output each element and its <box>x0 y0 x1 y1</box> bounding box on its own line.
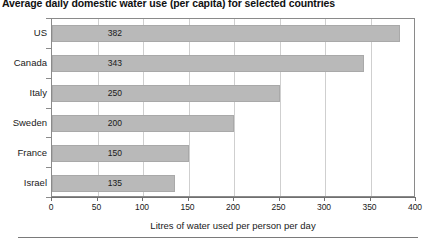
x-axis-tick <box>233 197 234 201</box>
x-axis-tick-label: 200 <box>218 202 248 212</box>
x-axis-tick-label: 150 <box>173 202 203 212</box>
gridline <box>98 19 99 196</box>
chart-title: Average daily domestic water use (per ca… <box>2 0 432 9</box>
x-axis-tick-label: 350 <box>355 202 385 212</box>
x-axis-tick <box>188 197 189 201</box>
x-axis-tick <box>324 197 325 201</box>
x-axis-tick-label: 300 <box>309 202 339 212</box>
x-axis-tick <box>370 197 371 201</box>
x-axis-tick-label: 250 <box>264 202 294 212</box>
y-axis-label: US <box>1 24 47 41</box>
x-axis-tick-label: 50 <box>82 202 112 212</box>
x-axis-title: Litres of water used per person per day <box>51 220 415 231</box>
x-axis-tick <box>279 197 280 201</box>
gridline <box>234 19 235 196</box>
gridline <box>325 19 326 196</box>
bar-row: 135 <box>52 175 416 192</box>
bar <box>52 115 234 132</box>
y-axis-label: Israel <box>1 174 47 191</box>
bar-row: 150 <box>52 145 416 162</box>
x-axis-tick <box>51 197 52 201</box>
x-axis-tick-label: 0 <box>36 202 66 212</box>
gridline <box>143 19 144 196</box>
bar-row: 200 <box>52 115 416 132</box>
bar-value-label: 200 <box>82 115 122 132</box>
x-axis-tick <box>142 197 143 201</box>
bar-value-label: 343 <box>82 55 122 72</box>
gridline <box>371 19 372 196</box>
gridline <box>280 19 281 196</box>
y-axis-label: France <box>1 144 47 161</box>
bar-row: 343 <box>52 55 416 72</box>
bar-row: 250 <box>52 85 416 102</box>
y-axis-label: Italy <box>1 84 47 101</box>
bar-value-label: 382 <box>82 25 122 42</box>
bar-row: 382 <box>52 25 416 42</box>
x-axis-tick-label: 100 <box>127 202 157 212</box>
x-axis-tick <box>415 197 416 201</box>
gridline <box>189 19 190 196</box>
bar-value-label: 135 <box>82 175 122 192</box>
y-axis-label-group: USCanadaItalySwedenFranceIsrael <box>0 18 47 197</box>
y-axis-label: Canada <box>1 54 47 71</box>
chart-page: Average daily domestic water use (per ca… <box>0 0 434 246</box>
x-axis-tick <box>97 197 98 201</box>
plot-area: 382343250200150135 <box>51 18 415 197</box>
x-axis-tick-label: 400 <box>400 202 430 212</box>
bar-value-label: 250 <box>82 85 122 102</box>
bar-value-label: 150 <box>82 145 122 162</box>
y-axis-label: Sweden <box>1 114 47 131</box>
bottom-divider <box>18 237 418 238</box>
